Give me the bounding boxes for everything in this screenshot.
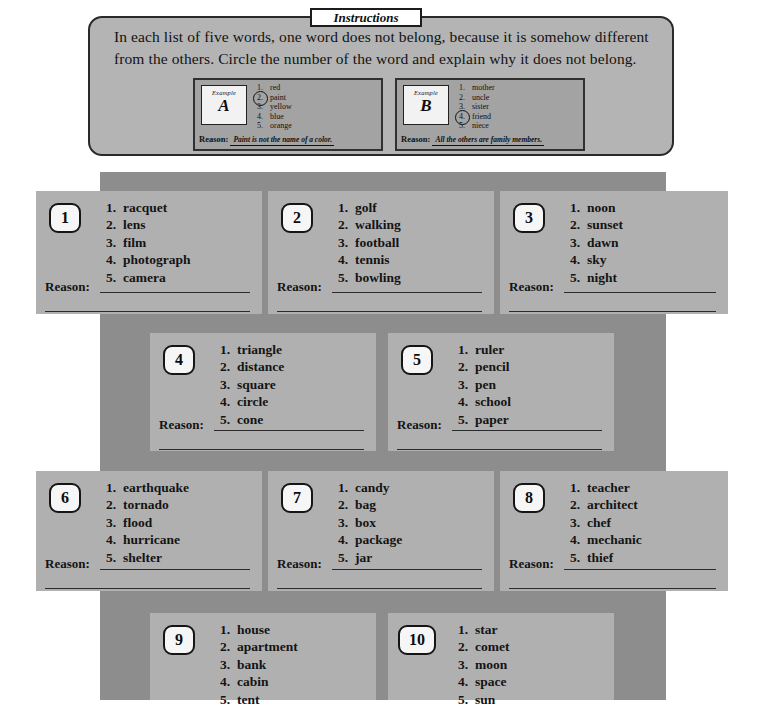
word-number[interactable]: 1. [458,621,475,638]
word-row[interactable]: 5.paper [458,411,511,428]
word-row[interactable]: 4.school [458,393,511,410]
word-number[interactable]: 3. [338,514,355,531]
word-number[interactable]: 2. [338,496,355,513]
reason-blank-line-1[interactable] [452,430,602,431]
word-number[interactable]: 1. [338,479,355,496]
word-number[interactable]: 2. [106,496,123,513]
word-number[interactable]: 3. [220,656,237,673]
word-number[interactable]: 1. [338,199,355,216]
word-row[interactable]: 2.lens [106,216,191,233]
word-number[interactable]: 3. [458,656,475,673]
word-number[interactable]: 2. [220,638,237,655]
word-number[interactable]: 4. [570,531,587,548]
word-number[interactable]: 5. [570,269,587,286]
reason-blank-line-2[interactable] [509,311,716,312]
reason-blank-line-2[interactable] [509,588,716,589]
word-row[interactable]: 1.house [220,621,298,638]
word-number[interactable]: 1. [106,479,123,496]
word-row[interactable]: 3.square [220,376,284,393]
reason-blank-line-2[interactable] [397,449,602,450]
word-number[interactable]: 3. [220,376,237,393]
word-number[interactable]: 3. [338,234,355,251]
word-row[interactable]: 1.triangle [220,341,284,358]
word-number[interactable]: 4. [220,393,237,410]
exercise-number-badge[interactable]: 1 [49,203,81,233]
word-number[interactable]: 2. [570,216,587,233]
word-number[interactable]: 4. [106,531,123,548]
word-number[interactable]: 4. [106,251,123,268]
word-row[interactable]: 1.golf [338,199,401,216]
word-row[interactable]: 5.shelter [106,549,189,566]
reason-blank-line-2[interactable] [45,311,250,312]
word-number[interactable]: 2. [458,358,475,375]
exercise-number-badge[interactable]: 10 [398,625,436,655]
reason-blank-line-1[interactable] [214,430,364,431]
word-row[interactable]: 1.earthquake [106,479,189,496]
word-row[interactable]: 1.candy [338,479,402,496]
exercise-number-badge[interactable]: 8 [513,483,545,513]
word-row[interactable]: 4.space [458,673,509,690]
word-row[interactable]: 5.camera [106,269,191,286]
exercise-number-badge[interactable]: 7 [281,483,313,513]
word-row[interactable]: 2.pencil [458,358,511,375]
word-number[interactable]: 1. [570,479,587,496]
reason-blank-line-1[interactable] [332,292,482,293]
word-row[interactable]: 4.circle [220,393,284,410]
word-number[interactable]: 5. [338,269,355,286]
word-row[interactable]: 3.football [338,234,401,251]
word-row[interactable]: 1.star [458,621,509,638]
word-number[interactable]: 4. [570,251,587,268]
reason-blank-line-1[interactable] [332,569,482,570]
word-number[interactable]: 2. [570,496,587,513]
exercise-number-badge[interactable]: 3 [513,203,545,233]
word-number[interactable]: 1. [220,621,237,638]
word-row[interactable]: 4.photograph [106,251,191,268]
word-row[interactable]: 5.bowling [338,269,401,286]
word-row[interactable]: 4.tennis [338,251,401,268]
word-number[interactable]: 5. [220,411,237,428]
word-row[interactable]: 3.dawn [570,234,623,251]
word-number[interactable]: 5. [338,549,355,566]
word-row[interactable]: 1.ruler [458,341,511,358]
word-row[interactable]: 3.flood [106,514,189,531]
word-number[interactable]: 4. [458,393,475,410]
word-row[interactable]: 4.package [338,531,402,548]
word-number[interactable]: 1. [220,341,237,358]
word-row[interactable]: 3.chef [570,514,642,531]
word-row[interactable]: 2.architect [570,496,642,513]
word-number[interactable]: 2. [338,216,355,233]
word-number[interactable]: 3. [570,234,587,251]
word-number[interactable]: 5. [220,691,237,708]
word-row[interactable]: 2.comet [458,638,509,655]
word-row[interactable]: 5.thief [570,549,642,566]
word-row[interactable]: 5.sun [458,691,509,708]
word-number[interactable]: 3. [106,514,123,531]
word-row[interactable]: 2.tornado [106,496,189,513]
word-row[interactable]: 4.cabin [220,673,298,690]
word-number[interactable]: 4. [458,673,475,690]
exercise-number-badge[interactable]: 9 [163,625,195,655]
exercise-number-badge[interactable]: 4 [163,345,195,375]
word-number[interactable]: 4. [338,531,355,548]
word-number[interactable]: 2. [106,216,123,233]
word-number[interactable]: 1. [106,199,123,216]
reason-blank-line-2[interactable] [45,588,250,589]
word-row[interactable]: 5.night [570,269,623,286]
word-number[interactable]: 3. [106,234,123,251]
exercise-number-badge[interactable]: 2 [281,203,313,233]
reason-blank-line-2[interactable] [277,588,482,589]
word-number[interactable]: 1. [458,341,475,358]
word-row[interactable]: 4.sky [570,251,623,268]
reason-blank-line-1[interactable] [100,292,250,293]
word-row[interactable]: 1.noon [570,199,623,216]
word-row[interactable]: 2.apartment [220,638,298,655]
word-number[interactable]: 3. [458,376,475,393]
word-row[interactable]: 3.bank [220,656,298,673]
word-row[interactable]: 5.tent [220,691,298,708]
word-row[interactable]: 2.distance [220,358,284,375]
reason-blank-line-2[interactable] [277,311,482,312]
word-row[interactable]: 2.sunset [570,216,623,233]
word-number[interactable]: 4. [220,673,237,690]
reason-blank-line-1[interactable] [100,569,250,570]
word-row[interactable]: 5.cone [220,411,284,428]
